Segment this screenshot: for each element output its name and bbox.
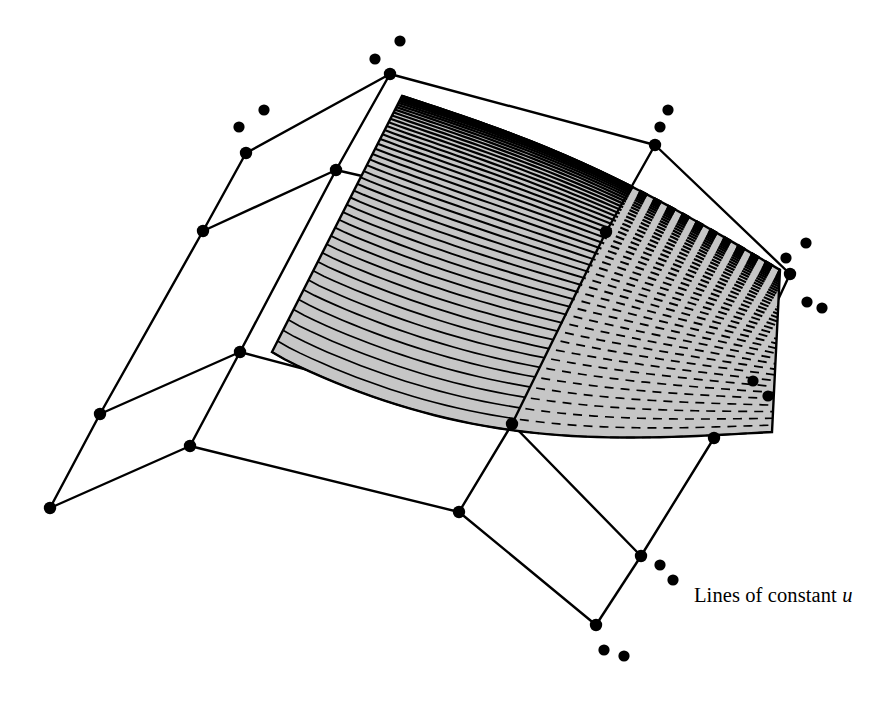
control-polygon-edge bbox=[50, 414, 100, 508]
free-control-point bbox=[747, 375, 758, 386]
control-polygon-edge bbox=[100, 231, 203, 414]
free-control-point bbox=[598, 644, 609, 655]
free-control-point bbox=[258, 104, 269, 115]
free-control-point bbox=[816, 302, 827, 313]
free-control-point bbox=[801, 296, 812, 307]
control-polygon-edge bbox=[203, 153, 246, 231]
control-point bbox=[635, 550, 647, 562]
control-point bbox=[197, 225, 209, 237]
control-polygon-edge bbox=[100, 352, 240, 414]
free-control-point bbox=[369, 53, 380, 64]
control-point bbox=[649, 139, 661, 151]
control-polygon-edge bbox=[190, 352, 240, 446]
caption-prefix: Lines of constant bbox=[694, 584, 842, 606]
free-control-point bbox=[618, 650, 629, 661]
control-point bbox=[44, 502, 56, 514]
free-control-point bbox=[780, 252, 791, 263]
control-point bbox=[384, 68, 396, 80]
caption-parameter-symbol: u bbox=[842, 584, 852, 606]
figure-canvas: Lines of constant u bbox=[0, 0, 895, 713]
free-control-point bbox=[394, 35, 405, 46]
control-polygon-edge bbox=[190, 446, 459, 512]
control-point bbox=[708, 432, 720, 444]
control-point bbox=[184, 440, 196, 452]
free-control-point bbox=[800, 237, 811, 248]
control-point bbox=[590, 619, 602, 631]
control-polygon-edge bbox=[596, 556, 641, 625]
control-point bbox=[600, 226, 612, 238]
control-point bbox=[330, 164, 342, 176]
control-polygon-edge bbox=[512, 424, 641, 556]
control-point bbox=[240, 147, 252, 159]
control-point bbox=[234, 346, 246, 358]
free-control-point bbox=[233, 121, 244, 132]
control-polygon-edge bbox=[641, 438, 714, 556]
control-point bbox=[784, 268, 796, 280]
control-point bbox=[94, 408, 106, 420]
control-point bbox=[453, 506, 465, 518]
control-point bbox=[506, 418, 518, 430]
free-control-point bbox=[654, 121, 665, 132]
free-control-point bbox=[762, 390, 773, 401]
free-control-point bbox=[654, 559, 665, 570]
free-control-point bbox=[662, 104, 673, 115]
control-polygon-edge bbox=[459, 512, 596, 625]
free-control-point bbox=[667, 574, 678, 585]
control-polygon-edge bbox=[459, 424, 512, 512]
control-polygon-edge bbox=[50, 446, 190, 508]
caption-lines-of-constant-u: Lines of constant u bbox=[694, 584, 852, 607]
control-polygon-edge bbox=[203, 170, 336, 231]
